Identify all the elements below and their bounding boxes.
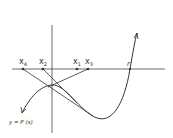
point-x4 — [22, 68, 25, 71]
label-x2: x2 — [39, 57, 47, 67]
point-x3 — [87, 68, 90, 71]
label-x3: x3 — [85, 57, 93, 67]
point-r — [129, 68, 131, 70]
label-x4: x4 — [19, 57, 27, 67]
label-curve: y = P (x) — [8, 119, 33, 126]
label-x1: x1 — [73, 57, 81, 67]
curve-p-of-x — [22, 33, 137, 119]
tangent-from-x4 — [23, 69, 93, 116]
tangent-from-x3 — [48, 69, 88, 87]
newton-method-diagram: x4 x2 x1 x3 r y = P (x) — [0, 0, 173, 138]
point-x2 — [42, 68, 45, 71]
point-x1 — [76, 68, 79, 71]
